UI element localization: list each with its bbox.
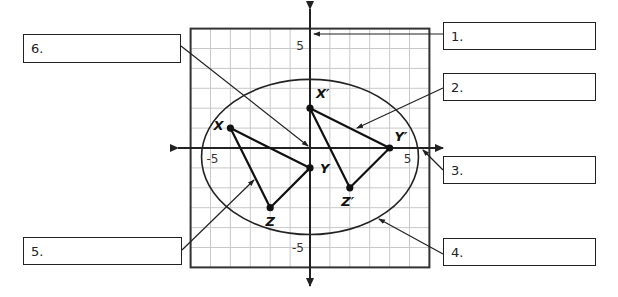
- vertex-label-x-prime: X′: [315, 86, 330, 101]
- y-tick-label-negative: -5: [292, 241, 304, 255]
- x-tick-label-positive: 5: [404, 152, 412, 166]
- callout-leader-3: [423, 150, 443, 170]
- vertex-label-z-prime: Z′: [340, 194, 354, 209]
- vertex-label-y: Y: [320, 161, 331, 176]
- callout-label-2: 2.: [451, 80, 463, 95]
- callout-box-6[interactable]: 6.: [23, 34, 181, 63]
- callout-label-3: 3.: [451, 163, 463, 178]
- callout-label-6: 6.: [31, 41, 43, 56]
- vertex-label-z: Z: [264, 214, 275, 229]
- callout-box-5[interactable]: 5.: [23, 237, 182, 265]
- callout-leader-lines: [181, 34, 443, 254]
- x-tick-label-negative: -5: [207, 152, 219, 166]
- callout-leader-6: [181, 46, 308, 146]
- vertex-label-y-prime: Y′: [395, 129, 408, 144]
- vertex-x-prime: [306, 105, 313, 112]
- callout-box-4[interactable]: 4.: [443, 238, 596, 266]
- y-tick-label-positive: 5: [296, 39, 304, 53]
- vertex-y-prime: [386, 144, 393, 151]
- vertex-z-prime: [346, 184, 353, 191]
- callout-label-4: 4.: [451, 245, 463, 260]
- vertex-label-x: X: [212, 118, 224, 133]
- callout-label-5: 5.: [31, 244, 43, 259]
- callout-leader-5: [182, 180, 254, 250]
- callout-box-1[interactable]: 1.: [443, 22, 596, 50]
- callout-leader-4: [379, 219, 443, 254]
- callout-box-2[interactable]: 2.: [443, 73, 596, 101]
- callout-label-1: 1.: [451, 29, 463, 44]
- vertex-x: [227, 125, 234, 132]
- vertex-y: [306, 164, 313, 171]
- callout-box-3[interactable]: 3.: [443, 156, 596, 184]
- vertex-z: [267, 204, 274, 211]
